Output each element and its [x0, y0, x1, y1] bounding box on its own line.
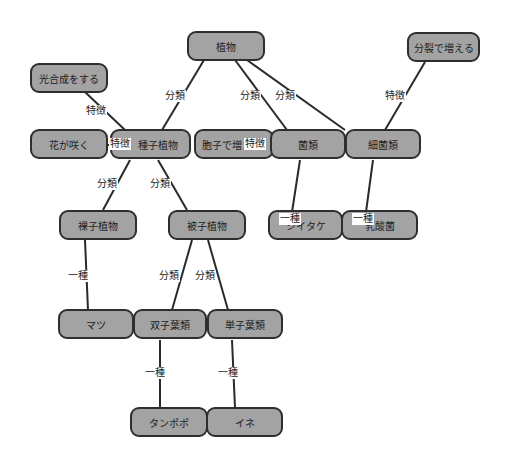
node-label: 被子植物	[187, 218, 227, 233]
edge-label-bacteria-lactic: 一種	[352, 213, 374, 225]
edge-label-plant-seed: 分類	[164, 90, 186, 102]
node-rice[interactable]: イネ	[206, 407, 283, 437]
edge-label-dicots-dandelion: 一種	[144, 367, 166, 379]
edge-label-fungi-shiitake: 一種	[279, 213, 301, 225]
edge-label-seed-flowers: 特徴	[109, 138, 131, 150]
node-gymnosperms[interactable]: 裸子植物	[59, 210, 137, 240]
node-label: 単子葉類	[225, 317, 265, 332]
node-plant[interactable]: 植物	[187, 31, 265, 61]
node-label: 種子植物	[138, 137, 178, 152]
edge-label-plant-fungi: 分類	[239, 90, 261, 102]
node-pine[interactable]: マツ	[58, 309, 134, 339]
node-label: タンポポ	[149, 415, 189, 430]
edge-label-seed-gymnosperms: 分類	[96, 178, 118, 190]
edge-label-angiosperms-monocots: 分類	[194, 270, 216, 282]
node-label: 光合成をする	[39, 71, 99, 86]
node-label: 花が咲く	[49, 137, 89, 152]
node-label: マツ	[86, 317, 106, 332]
node-monocots[interactable]: 単子葉類	[207, 309, 283, 339]
edge-label-gymnosperms-pine: 一種	[67, 270, 89, 282]
edge-label-seed-photosynthesis: 特徴	[85, 105, 107, 117]
node-flowers-bloom[interactable]: 花が咲く	[30, 129, 108, 159]
node-binary-fission[interactable]: 分裂で増える	[407, 32, 480, 62]
node-photosynthesis[interactable]: 光合成をする	[30, 63, 108, 93]
node-label: 双子葉類	[150, 317, 190, 332]
edge-label-plant-bacteria: 分類	[274, 90, 296, 102]
node-fungi[interactable]: 菌類	[270, 129, 346, 159]
edge-label-angiosperms-dicots: 分類	[158, 270, 180, 282]
edge-label-bacteria-fission: 特徴	[384, 90, 406, 102]
node-bacteria[interactable]: 細菌類	[345, 129, 421, 159]
edge-label-fungi-spores: 特徴	[244, 138, 266, 150]
node-label: 分裂で増える	[414, 40, 474, 55]
node-label: 裸子植物	[78, 218, 118, 233]
node-label: 菌類	[298, 137, 318, 152]
edge-label-monocots-rice: 一種	[217, 367, 239, 379]
node-label: 細菌類	[368, 137, 398, 152]
concept-map: 植物 分裂で増える 光合成をする 花が咲く 種子植物 胞子で増える 菌類 細菌類…	[0, 0, 512, 465]
node-dandelion[interactable]: タンポポ	[130, 407, 208, 437]
node-label: 植物	[216, 39, 236, 54]
node-label: イネ	[235, 415, 255, 430]
node-dicots[interactable]: 双子葉類	[133, 309, 207, 339]
node-angiosperms[interactable]: 被子植物	[168, 210, 246, 240]
edge-label-seed-angiosperms: 分類	[149, 178, 171, 190]
